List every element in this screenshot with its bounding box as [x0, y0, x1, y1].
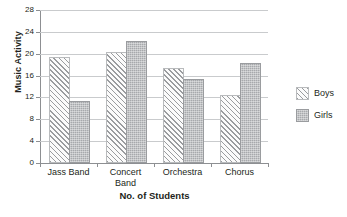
bar-girls-3	[240, 63, 261, 163]
x-category-label: Chorus	[205, 167, 274, 178]
y-tick-mark	[36, 119, 40, 120]
gridline	[40, 32, 268, 33]
bar-girls-0	[69, 101, 90, 163]
y-tick-mark	[36, 32, 40, 33]
gridline	[40, 54, 268, 55]
y-tick-label: 12	[25, 93, 34, 101]
x-axis-title: No. of Students	[40, 190, 269, 201]
y-tick-label: 4	[30, 137, 34, 145]
bar-chart: Music Activity 0481216202428 No. of Stud…	[0, 0, 347, 217]
y-tick-label: 28	[25, 6, 34, 14]
gridline	[40, 10, 268, 11]
y-tick-label: 20	[25, 50, 34, 58]
legend-label: Girls	[314, 110, 333, 121]
gridline	[40, 76, 268, 77]
legend-item-boys[interactable]: Boys	[296, 88, 334, 99]
y-tick-label: 24	[25, 28, 34, 36]
legend-swatch-boys	[296, 87, 309, 100]
y-tick-label: 8	[30, 115, 34, 123]
bar-boys-3	[220, 95, 241, 163]
y-tick-mark	[36, 141, 40, 142]
bar-boys-2	[163, 68, 184, 163]
bar-girls-1	[126, 41, 147, 163]
bar-boys-0	[49, 57, 70, 163]
legend-item-girls[interactable]: Girls	[296, 110, 334, 121]
chart-legend: BoysGirls	[296, 88, 334, 132]
y-tick-mark	[36, 54, 40, 55]
y-tick-label: 16	[25, 72, 34, 80]
y-axis-title: Music Activity	[13, 14, 23, 110]
y-tick-label: 0	[30, 159, 34, 167]
y-tick-mark	[36, 76, 40, 77]
bar-girls-2	[183, 79, 204, 163]
legend-swatch-girls	[296, 109, 309, 122]
plot-area: 0481216202428	[40, 10, 268, 163]
x-tick-mark	[268, 163, 269, 167]
y-tick-mark	[36, 97, 40, 98]
bar-boys-1	[106, 52, 127, 163]
y-tick-mark	[36, 10, 40, 11]
legend-label: Boys	[314, 88, 334, 99]
